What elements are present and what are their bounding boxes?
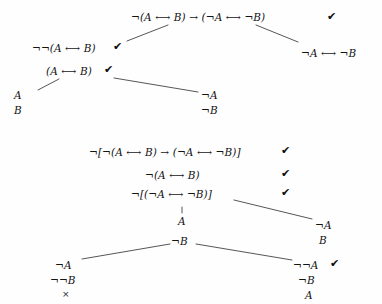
check-l3: ✔ xyxy=(281,187,290,199)
check-u1: ✔ xyxy=(327,11,336,23)
node-u2: ¬¬(A ⟷ B) xyxy=(32,42,96,54)
check-u4: ✔ xyxy=(104,64,113,76)
edge-u1-to-u2 xyxy=(127,25,168,41)
node-l7: B xyxy=(319,234,327,246)
closure-mark-left: × xyxy=(62,289,70,299)
check-l11: ✔ xyxy=(330,258,339,270)
edge-l5-to-l8 xyxy=(82,244,170,259)
edge-u4-to-u5 xyxy=(38,79,59,90)
node-l12: ¬B xyxy=(298,274,315,286)
edge-u4-to-u7 xyxy=(114,78,198,92)
node-u8: ¬B xyxy=(201,104,218,116)
node-u3: ¬A ⟷ ¬B xyxy=(301,47,356,59)
node-l9: ¬¬B xyxy=(50,274,76,286)
node-l6: ¬A xyxy=(315,219,332,231)
edge-l3-to-l6 xyxy=(234,200,312,219)
check-l1: ✔ xyxy=(281,145,290,157)
edge-u1-to-u3 xyxy=(256,25,298,42)
truth-tree-diagram: ¬(A ⟷ B) → (¬A ⟷ ¬B) ✔ ¬¬(A ⟷ B) ✔ ¬A ⟷ … xyxy=(0,0,382,304)
node-l8: ¬A xyxy=(55,259,72,271)
edge-l5-to-l11 xyxy=(196,244,292,260)
node-u4: (A ⟷ B) xyxy=(46,65,92,77)
node-u7: ¬A xyxy=(201,89,218,101)
node-l2: ¬(A ⟷ B) xyxy=(145,169,200,181)
check-u2: ✔ xyxy=(113,41,122,53)
node-u5: A xyxy=(14,89,22,101)
check-l2: ✔ xyxy=(281,168,290,180)
node-u1: ¬(A ⟷ B) → (¬A ⟷ ¬B) xyxy=(131,11,265,23)
node-l1: ¬[¬(A ⟷ B) → (¬A ⟷ ¬B)] xyxy=(89,146,241,158)
node-u6: B xyxy=(14,104,22,116)
node-l4: A xyxy=(178,215,186,227)
node-l13: A xyxy=(305,289,313,301)
node-l5: ¬B xyxy=(171,235,188,247)
node-l11: ¬¬A xyxy=(293,259,318,271)
node-l3: ¬[(¬A ⟷ ¬B)] xyxy=(131,188,212,200)
